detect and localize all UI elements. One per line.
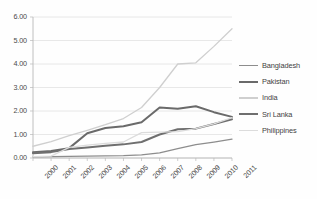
legend-line-swatch <box>239 97 258 98</box>
y-axis-tick-label: 5.00 <box>1 36 27 45</box>
y-axis-tick-label: 2.00 <box>1 106 27 115</box>
legend-item-india[interactable]: India <box>239 90 317 106</box>
line-chart: 0.001.002.003.004.005.006.00 20002001200… <box>0 0 317 199</box>
legend-item-bangladesh[interactable]: Bangladesh <box>239 57 317 73</box>
legend-item-pakistan[interactable]: Pakistan <box>239 73 317 89</box>
axis-lines <box>30 17 232 161</box>
legend-line-swatch <box>239 65 258 66</box>
legend-item-sri-lanka[interactable]: Sri Lanka <box>239 106 317 122</box>
y-axis-tick-label: 1.00 <box>1 130 27 139</box>
chart-legend: BangladeshPakistanIndiaSri LankaPhilippi… <box>239 57 317 139</box>
legend-label: Sri Lanka <box>262 110 292 119</box>
legend-line-swatch <box>239 81 258 83</box>
y-axis-tick-label: 0.00 <box>1 153 27 162</box>
legend-line-swatch <box>239 130 258 131</box>
y-axis-tick-label: 6.00 <box>1 12 27 21</box>
legend-label: Philippines <box>262 126 297 135</box>
series-line-bangladesh <box>33 139 232 157</box>
y-axis-tick-label: 3.00 <box>1 83 27 92</box>
y-axis-tick-label: 4.00 <box>1 59 27 68</box>
legend-label: India <box>262 93 278 102</box>
legend-item-philippines[interactable]: Philippines <box>239 123 317 139</box>
series-lines <box>33 29 232 157</box>
legend-line-swatch <box>239 113 258 115</box>
legend-label: Pakistan <box>262 77 290 86</box>
legend-label: Bangladesh <box>262 61 300 70</box>
